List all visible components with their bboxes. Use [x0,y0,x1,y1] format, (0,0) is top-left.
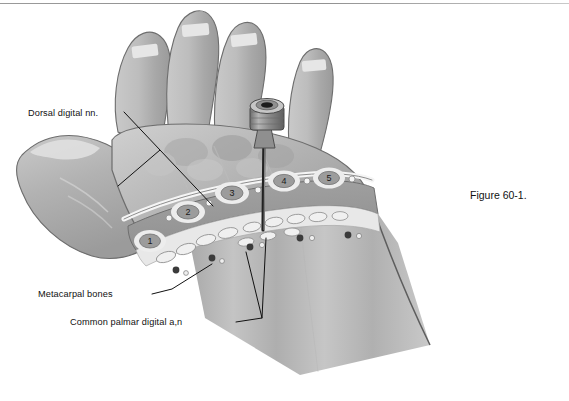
marker-1: 1 [147,236,152,246]
marker-4: 4 [281,176,286,186]
label-dorsal-digital-nn: Dorsal digital nn. [28,109,98,118]
marker-2: 2 [185,207,190,217]
figure-page: 1 2 3 4 5 [0,0,569,401]
label-metacarpal-bones: Metacarpal bones [38,290,113,299]
marker-5: 5 [326,173,331,183]
label-common-palmar-digital: Common palmar digital a,n [70,318,182,327]
marker-3: 3 [229,188,234,198]
figure-caption: Figure 60-1. [470,190,527,201]
